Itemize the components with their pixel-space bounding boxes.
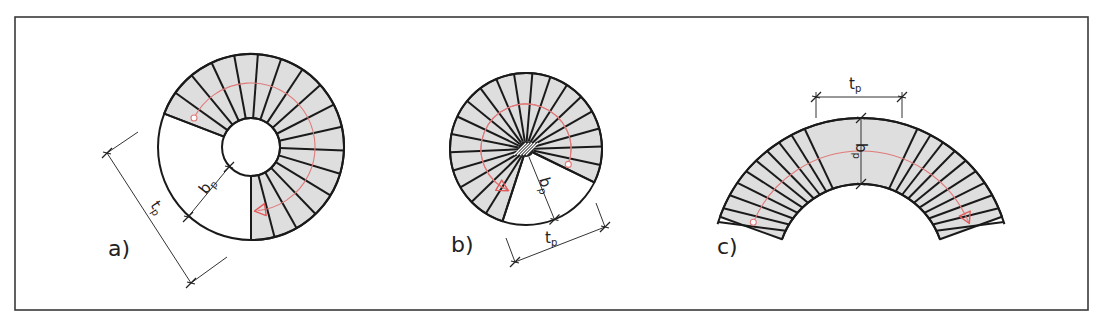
panel-label-a: a) (108, 236, 130, 261)
width-dimension-label: bp (195, 174, 220, 198)
going-dimension-line (515, 227, 605, 262)
panel-label-b: b) (451, 232, 474, 257)
panel-a-spiral-stair-with-well: bptp (102, 54, 344, 288)
panel-b-spiral-stair-central-post: bptp (450, 73, 610, 267)
panel-c-curved-stair-flight: bptp (718, 75, 1005, 239)
going-dimension-label: tp (146, 197, 169, 218)
going-dimension-label: tp (545, 229, 557, 248)
walkline-start-circle (565, 161, 571, 167)
extension-line (506, 238, 515, 262)
stair-diagram-figure: bptp bptp bptp a) b) c) (0, 0, 1097, 327)
walkline-start-circle (191, 115, 197, 121)
extension-line (596, 203, 605, 227)
panel-label-c: c) (717, 234, 738, 259)
extension-line (191, 257, 227, 283)
width-dimension-label: bp (534, 175, 556, 195)
extension-line (107, 132, 138, 153)
going-dimension-label: tp (849, 75, 861, 94)
walkline-start-circle (750, 219, 756, 225)
going-dimension-line (107, 153, 191, 283)
